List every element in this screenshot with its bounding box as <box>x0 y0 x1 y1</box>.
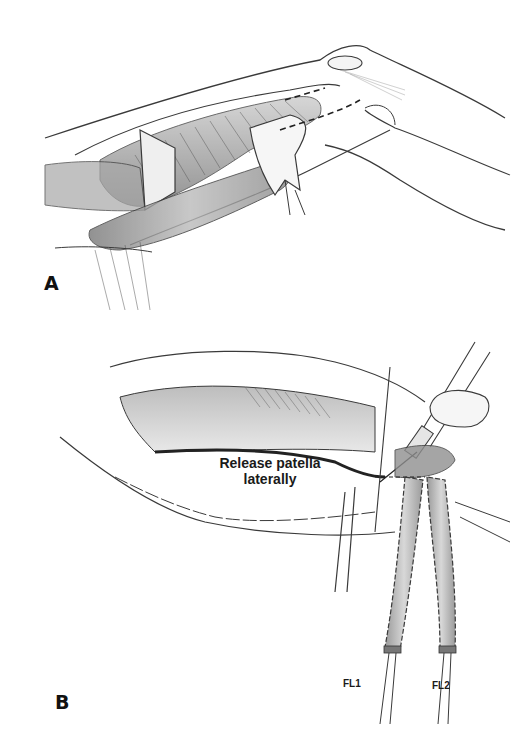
release-annotation-line-1: Release patella <box>205 455 335 471</box>
panel-b-illustration <box>55 332 510 724</box>
release-annotation-line-2: laterally <box>205 471 335 487</box>
panel-label-b: B <box>55 693 69 712</box>
panel-label-a: A <box>44 274 59 293</box>
panel-a-illustration <box>40 20 512 320</box>
release-patella-annotation: Release patella laterally <box>205 455 335 487</box>
graft-limb-label-fl2: FL2 <box>432 680 450 692</box>
graft-limb-label-fl1: FL1 <box>343 678 361 690</box>
knee-exposure-drawing <box>40 20 512 320</box>
lateral-release-drawing <box>55 332 510 724</box>
